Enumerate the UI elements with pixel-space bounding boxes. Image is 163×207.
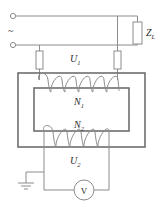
source-load-network <box>16 16 138 51</box>
load-impedance-label-sub: L <box>151 33 156 40</box>
secondary-voltage-label: U2 <box>70 155 81 168</box>
secondary-voltage-label-sub: 2 <box>77 161 81 168</box>
primary-turns-label-sub: 1 <box>81 102 84 109</box>
diagram-canvas: ~ ZL U1 N1 N2 <box>0 0 163 207</box>
ac-terminal-top[interactable] <box>10 13 15 18</box>
primary-voltage-label: U1 <box>70 53 80 66</box>
load-impedance-box[interactable] <box>133 22 142 44</box>
ac-source-symbol: ~ <box>8 25 14 36</box>
voltmeter-label: V <box>81 186 88 196</box>
primary-turns-label: N1 <box>73 96 84 109</box>
series-element-right[interactable] <box>114 51 121 69</box>
load-impedance-label: ZL <box>146 27 156 40</box>
series-element-left[interactable] <box>36 51 43 69</box>
ac-terminal-bottom[interactable] <box>10 42 15 47</box>
ground-symbol <box>18 183 34 189</box>
primary-winding-turns <box>38 73 119 92</box>
primary-voltage-label-sub: 1 <box>77 59 80 66</box>
primary-winding <box>38 73 119 92</box>
transformer-circuit-schematic: ~ ZL U1 N1 N2 <box>0 0 163 207</box>
